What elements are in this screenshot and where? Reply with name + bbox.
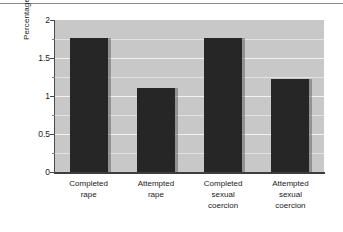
y-tick-mark-minor <box>52 77 55 78</box>
x-tick-label: Completedsexualcoercion <box>190 178 257 211</box>
y-tick-label: 0 <box>26 168 50 177</box>
y-tick-mark-minor <box>52 39 55 40</box>
x-axis-line <box>54 172 325 174</box>
x-tick-label: Completedrape <box>55 178 122 200</box>
x-tick-label-line: Completed <box>190 178 257 189</box>
y-tick-mark <box>50 172 55 173</box>
x-tick-label-line: coercion <box>257 200 324 211</box>
x-tick-label-line: rape <box>122 189 189 200</box>
bar <box>271 79 309 172</box>
bar <box>204 38 242 173</box>
y-tick-label: 0.5 <box>26 130 50 139</box>
y-tick-label: 1 <box>26 92 50 101</box>
x-tick-label: Attemptedsexualcoercion <box>257 178 324 211</box>
y-tick-mark <box>50 58 55 59</box>
bar <box>137 88 175 172</box>
y-tick-mark <box>50 134 55 135</box>
bar <box>70 38 108 172</box>
plot-area <box>55 20 324 172</box>
x-tick-label: Attemptedrape <box>122 178 189 200</box>
x-tick-label-line: sexual <box>257 189 324 200</box>
y-axis-tick-labels: 00.511.52 <box>22 0 50 232</box>
x-tick-label-line: Attempted <box>257 178 324 189</box>
y-tick-label: 2 <box>26 16 50 25</box>
y-tick-mark-minor <box>52 115 55 116</box>
x-tick-label-line: coercion <box>190 200 257 211</box>
x-tick-label-line: rape <box>55 189 122 200</box>
chart-figure: Percentage 00.511.52 CompletedrapeAttemp… <box>0 0 343 232</box>
y-tick-mark <box>50 20 55 21</box>
y-tick-mark <box>50 96 55 97</box>
y-tick-mark-minor <box>52 153 55 154</box>
y-tick-label: 1.5 <box>26 54 50 63</box>
x-tick-label-line: Attempted <box>122 178 189 189</box>
x-tick-label-line: Completed <box>55 178 122 189</box>
x-tick-label-line: sexual <box>190 189 257 200</box>
top-divider-rule <box>0 3 343 4</box>
